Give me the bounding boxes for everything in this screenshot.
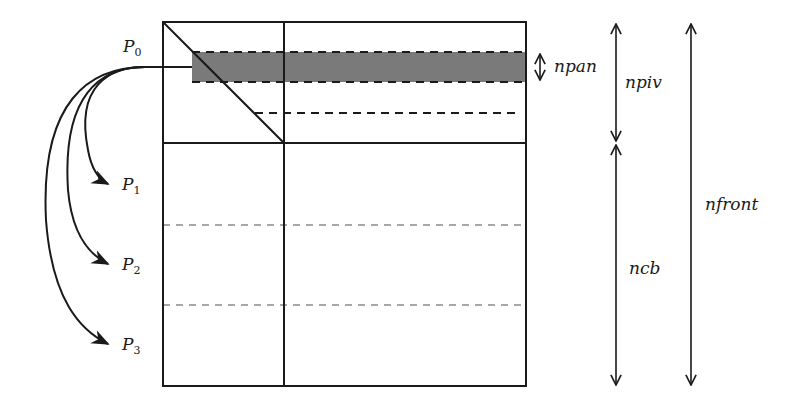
panel-npan-shaded — [192, 52, 526, 82]
label-p1: P1 — [121, 174, 140, 197]
label-p0: P0 — [122, 36, 141, 59]
arrow-to-p2 — [67, 67, 145, 264]
npiv-label: npiv — [625, 72, 662, 92]
npan-label: npan — [554, 56, 597, 76]
frontal-matrix-diagram: P0 P1 P2 P3 npan npiv ncb nfront — [0, 0, 807, 406]
nfront-label: nfront — [705, 194, 759, 214]
arrow-to-p3 — [46, 67, 145, 344]
label-p2: P2 — [121, 254, 140, 277]
ncb-label: ncb — [629, 258, 660, 278]
label-p3: P3 — [121, 334, 140, 357]
